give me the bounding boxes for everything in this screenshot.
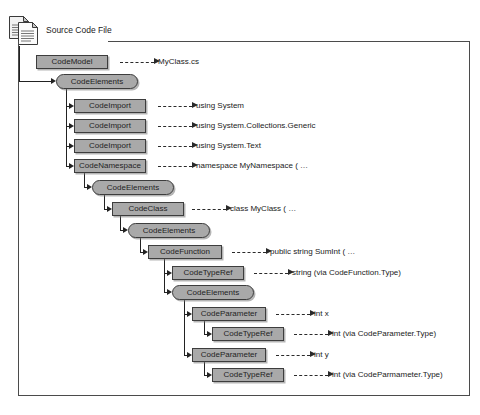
annotation-dashed-line — [294, 375, 328, 376]
connector-stem — [204, 321, 205, 334]
node-codeparameter[interactable]: CodeParameter — [192, 348, 266, 362]
annotation-text: using System — [196, 100, 244, 111]
node-label: CodeFunction — [160, 246, 210, 258]
node-codefunction[interactable]: CodeFunction — [148, 245, 222, 259]
node-label: CodeParameter — [201, 349, 257, 361]
annotation-dashed-line — [276, 314, 310, 315]
connector-arrowhead — [207, 331, 212, 337]
connector-arrowhead — [167, 270, 172, 276]
annotation-text: int (via CodeParmameter.Type) — [332, 369, 443, 380]
source-file-boundary — [18, 41, 470, 396]
node-codetyperef[interactable]: CodeTypeRef — [212, 368, 284, 382]
connector-arrowhead — [167, 289, 172, 295]
node-label: CodeElements — [107, 182, 159, 194]
connector-arrowhead — [69, 123, 74, 129]
node-label: CodeElements — [71, 76, 123, 88]
annotation-text: int x — [314, 308, 329, 319]
annotation-dashed-line — [158, 106, 192, 107]
node-label: CodeImport — [89, 100, 131, 112]
node-codeclass[interactable]: CodeClass — [112, 202, 184, 216]
connector-stem — [164, 259, 165, 292]
node-label: CodeElements — [187, 287, 239, 299]
connector-stem — [66, 89, 67, 166]
connector-arrowhead — [207, 372, 212, 378]
node-codeelements[interactable]: CodeElements — [172, 285, 254, 300]
connector-stem — [184, 300, 185, 355]
node-codeelements[interactable]: CodeElements — [56, 74, 138, 89]
node-label: CodeElements — [143, 225, 195, 237]
connector-arrowhead — [143, 249, 148, 255]
node-codenamespace[interactable]: CodeNamespace — [74, 159, 146, 173]
annotation-dashed-line — [158, 146, 192, 147]
node-codeelements[interactable]: CodeElements — [128, 223, 210, 238]
connector-stem — [140, 238, 141, 252]
node-label: CodeClass — [128, 203, 167, 215]
connector-arrowhead — [107, 206, 112, 212]
annotation-text: using System.Text — [196, 140, 261, 151]
annotation-text: int (via CodeParameter.Type) — [332, 328, 436, 339]
connector-arrowhead — [69, 143, 74, 149]
annotation-text: int y — [314, 349, 329, 360]
annotation-dashed-line — [254, 273, 288, 274]
node-codeimport[interactable]: CodeImport — [74, 119, 146, 133]
annotation-text: class MyClass ( … — [230, 203, 296, 214]
connector-arrowhead — [187, 311, 192, 317]
connector-arrowhead — [187, 352, 192, 358]
annotation-dashed-line — [294, 334, 328, 335]
node-label: CodeTypeRef — [224, 369, 273, 381]
annotation-dashed-line — [158, 126, 192, 127]
node-label: CodeNamespace — [79, 160, 141, 172]
node-label: CodeImport — [89, 120, 131, 132]
node-codeimport[interactable]: CodeImport — [74, 99, 146, 113]
connector-arrowhead — [51, 78, 56, 84]
connector-stem — [120, 216, 121, 230]
node-codetyperef[interactable]: CodeTypeRef — [172, 266, 244, 280]
node-label: CodeTypeRef — [184, 267, 233, 279]
source-code-file-label: Source Code File — [46, 25, 112, 36]
connector-stem — [19, 46, 20, 81]
annotation-text: MyClass.cs — [158, 56, 199, 67]
node-label: CodeImport — [89, 140, 131, 152]
annotation-dashed-line — [276, 355, 310, 356]
annotation-dashed-line — [158, 166, 192, 167]
node-label: CodeParameter — [201, 308, 257, 320]
node-label: CodeModel — [52, 56, 93, 68]
node-codeimport[interactable]: CodeImport — [74, 139, 146, 153]
annotation-text: public string SumInt ( … — [270, 246, 355, 257]
node-codetyperef[interactable]: CodeTypeRef — [212, 327, 284, 341]
node-label: CodeTypeRef — [224, 328, 273, 340]
connector-arrowhead — [69, 163, 74, 169]
connector-stem — [84, 173, 85, 187]
annotation-dashed-line — [192, 209, 226, 210]
source-file-boundary-top-edge — [108, 41, 470, 42]
node-codeelements[interactable]: CodeElements — [92, 180, 174, 195]
node-codemodel[interactable]: CodeModel — [36, 55, 108, 69]
annotation-text: string (via CodeFunction.Type) — [292, 267, 401, 278]
annotation-dashed-line — [120, 62, 154, 63]
annotation-text: namespace MyNamespace ( … — [196, 160, 308, 171]
connector-arrowhead — [69, 103, 74, 109]
connector-arm — [19, 81, 51, 82]
annotation-dashed-line — [232, 252, 266, 253]
node-codeparameter[interactable]: CodeParameter — [192, 307, 266, 321]
annotation-text: using System.Collections.Generic — [196, 120, 316, 131]
connector-stem — [104, 195, 105, 209]
connector-stem — [204, 362, 205, 375]
connector-arrowhead — [87, 184, 92, 190]
diagram-canvas: Source Code File CodeModelCodeElementsCo… — [0, 0, 480, 415]
connector-arrowhead — [123, 227, 128, 233]
